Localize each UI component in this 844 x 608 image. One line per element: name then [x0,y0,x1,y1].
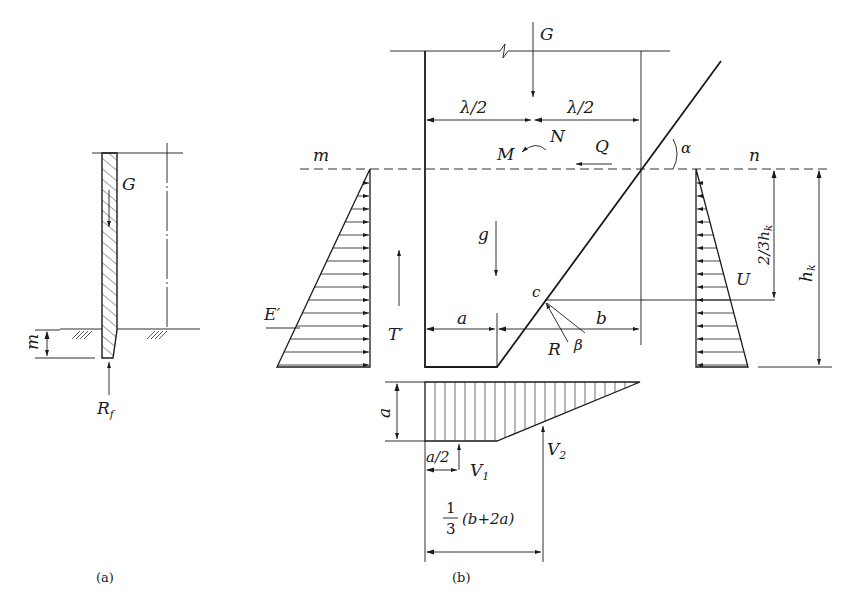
top-surface-break-line [390,44,670,58]
label-G: G [122,174,136,194]
soil-hatch-right [147,331,167,339]
label-N: N [549,126,566,146]
label-a-vertical: a [374,408,394,418]
base-pressure-diagram [425,382,640,441]
label-two-thirds-hk: 2/3hk [755,224,775,266]
wall-section [102,153,117,358]
figure-a: G m Rf (a) [22,143,200,585]
figure-b: G λ/2 λ/2 m n M N Q α g T′ E′ [263,22,832,585]
U-pressure-diagram [696,169,748,367]
diagram-canvas: G m Rf (a) G λ/2 λ/2 m n [0,0,844,608]
label-c: c [532,283,541,301]
label-beta: β [573,336,583,354]
E-prime-pressure-diagram [277,169,370,367]
label-frac-num: 1 [446,499,456,517]
R-arrow [546,303,568,342]
label-M: M [496,144,515,164]
label-hk: hk [796,264,818,282]
label-a-half: a/2 [426,448,450,466]
label-T-prime: T′ [388,324,403,344]
soil-hatch-left [72,331,92,339]
label-V1: V1 [470,460,489,483]
label-E-prime: E′ [263,304,280,324]
label-lambda-half-right: λ/2 [566,97,594,117]
label-lambda-half-left: λ/2 [459,97,487,117]
caption-b: (b) [452,570,470,585]
label-Q: Q [595,136,609,156]
label-V2: V2 [547,439,566,462]
label-G: G [540,24,554,44]
label-a: a [457,308,467,328]
alpha-arc [673,139,677,169]
label-m: m [22,334,42,350]
label-g: g [478,224,489,244]
label-U: U [736,269,751,289]
label-alpha: α [681,139,691,157]
label-b: b [596,308,607,328]
moment-arrow [522,145,546,152]
label-frac-den: 3 [446,520,456,538]
label-R: R [547,339,561,359]
beta-leader [547,303,585,333]
label-n: n [749,145,760,165]
label-frac-expr: (b+2a) [462,510,515,528]
label-R: Rf [96,398,116,421]
caption-a: (a) [96,570,114,585]
label-m: m [313,145,329,165]
